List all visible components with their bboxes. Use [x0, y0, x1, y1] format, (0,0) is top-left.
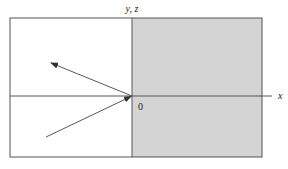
x-axis-label: x: [277, 90, 283, 101]
left-region: [10, 18, 132, 157]
origin-label: 0: [138, 101, 143, 112]
vertical-axis-label: y, z: [125, 3, 139, 14]
reflection-diagram: y, z x 0: [0, 0, 288, 169]
shaded-region: [132, 18, 262, 157]
